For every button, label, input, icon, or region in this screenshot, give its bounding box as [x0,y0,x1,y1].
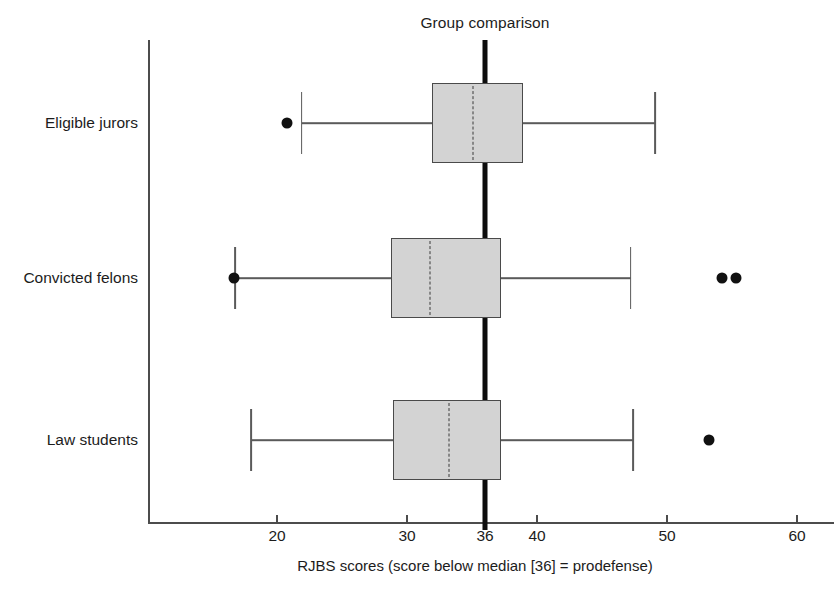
box-plot-chart: Group comparison 203036405060 Eligible j… [0,0,840,595]
x-tick-mark-30 [406,515,408,524]
outlier-point-1 [229,273,240,284]
x-axis-line [148,522,834,524]
whisker-low-line [251,439,393,441]
category-label-eligible-jurors: Eligible jurors [45,114,138,132]
whisker-high-cap [632,409,634,471]
whisker-high-cap [654,92,656,154]
outlier-point-1 [282,118,293,129]
whisker-low-line [235,277,391,279]
whisker-high-line [523,122,656,124]
x-tick-mark-60 [796,515,798,524]
outlier-point-1 [703,435,714,446]
whisker-high-line [501,439,634,441]
x-axis-title: RJBS scores (score below median [36] = p… [0,557,840,574]
whisker-low-cap [301,92,303,154]
chart-title: Group comparison [0,14,840,32]
x-tick-label-40: 40 [528,527,545,545]
x-tick-label-50: 50 [658,527,675,545]
x-tick-mark-50 [666,515,668,524]
median-line [448,403,449,477]
x-axis-title-text: RJBS scores (score below median [36] = p… [297,557,653,574]
whisker-low-line [302,122,432,124]
median-line [473,86,474,160]
median-line [430,241,431,315]
x-tick-mark-40 [536,515,538,524]
outlier-point-2 [716,273,727,284]
category-label-convicted-felons: Convicted felons [23,269,138,287]
box-iqr-rect [391,238,500,318]
x-tick-label-20: 20 [268,527,285,545]
category-label-law-students: Law students [47,431,138,449]
whisker-high-cap [630,247,632,309]
chart-title-text: Group comparison [420,14,549,31]
y-axis-line [148,40,150,524]
whisker-high-line [501,277,631,279]
x-tick-label-60: 60 [788,527,805,545]
x-tick-label-30: 30 [398,527,415,545]
whisker-low-cap [250,409,252,471]
x-tick-mark-20 [276,515,278,524]
box-iqr-rect [393,400,501,480]
box-iqr-rect [432,83,523,163]
outlier-point-3 [730,273,741,284]
